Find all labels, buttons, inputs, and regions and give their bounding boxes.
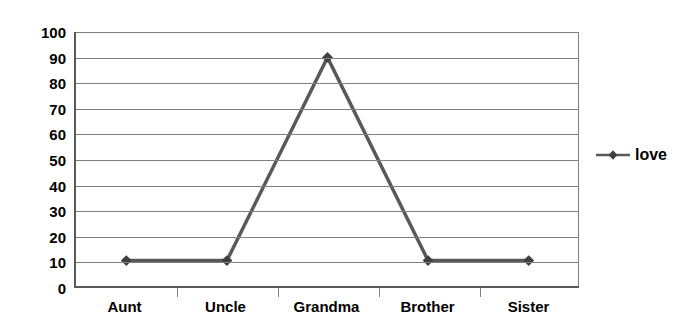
gridline <box>76 83 579 84</box>
data-point-marker <box>523 255 534 266</box>
gridline <box>76 237 579 238</box>
gridline <box>76 58 579 59</box>
gridline <box>76 262 579 263</box>
y-axis-tick-label: 80 <box>0 76 66 91</box>
series-line <box>126 57 528 260</box>
x-axis-tick <box>480 288 481 297</box>
y-axis-tick-label: 50 <box>0 153 66 168</box>
line-chart: 0102030405060708090100 AuntUncleGrandmaB… <box>0 0 676 336</box>
x-axis-category-label: Sister <box>508 299 550 314</box>
gridline <box>76 211 579 212</box>
gridline <box>76 160 579 161</box>
legend-label-love: love <box>635 147 667 163</box>
y-axis-tick-label: 90 <box>0 50 66 65</box>
x-axis-tick <box>177 288 178 297</box>
data-point-marker <box>121 255 132 266</box>
x-axis-category-label: Grandma <box>294 299 360 314</box>
y-axis-tick-label: 10 <box>0 255 66 270</box>
legend-marker-diamond-icon <box>596 148 630 162</box>
x-axis-category-labels: AuntUncleGrandmaBrotherSister <box>74 299 579 325</box>
y-axis-tick-label: 20 <box>0 229 66 244</box>
y-axis-tick-labels: 0102030405060708090100 <box>0 0 66 336</box>
y-axis-tick-label: 60 <box>0 127 66 142</box>
x-axis-category-label: Aunt <box>107 299 141 314</box>
y-axis-tick-label: 0 <box>0 281 66 296</box>
x-axis-category-label: Brother <box>400 299 454 314</box>
gridline <box>76 186 579 187</box>
data-point-marker <box>221 255 232 266</box>
y-axis-tick-label: 30 <box>0 204 66 219</box>
x-axis-tick <box>278 288 279 297</box>
chart-legend: love <box>596 147 667 163</box>
series-love-svg <box>76 32 579 286</box>
y-axis-tick-label: 100 <box>0 25 66 40</box>
x-axis-category-label: Uncle <box>205 299 246 314</box>
data-point-marker <box>423 255 434 266</box>
gridline <box>76 134 579 135</box>
gridline <box>76 32 579 33</box>
plot-area <box>74 32 579 288</box>
y-axis-tick-label: 40 <box>0 178 66 193</box>
y-axis-tick-label: 70 <box>0 101 66 116</box>
gridline <box>76 109 579 110</box>
x-axis-tick <box>379 288 380 297</box>
